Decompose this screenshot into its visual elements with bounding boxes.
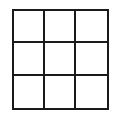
grid-cell-r3-c2[interactable] [45, 76, 76, 108]
grid-cell-r2-c3[interactable] [76, 43, 107, 75]
tic-tac-toe-grid [12, 9, 109, 110]
grid-cell-r2-c2[interactable] [45, 43, 76, 75]
grid-cell-r1-c2[interactable] [45, 11, 76, 43]
grid-cell-r1-c3[interactable] [76, 11, 107, 43]
grid-cell-r3-c3[interactable] [76, 76, 107, 108]
grid-cell-r1-c1[interactable] [14, 11, 45, 43]
grid-cell-r2-c1[interactable] [14, 43, 45, 75]
grid-cell-r3-c1[interactable] [14, 76, 45, 108]
